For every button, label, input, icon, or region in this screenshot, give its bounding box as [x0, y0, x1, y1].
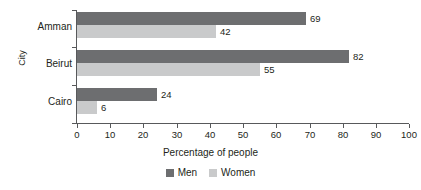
legend-swatch-women-icon: [209, 169, 217, 177]
x-axis-tick: [177, 124, 178, 128]
bar-chart: City Amman Beirut Cairo 69 42 82 55 24 6…: [0, 0, 421, 190]
x-axis-tick: [376, 124, 377, 128]
x-axis-tick: [143, 124, 144, 128]
x-axis-tick: [77, 124, 78, 128]
x-axis-tick-label-0: 0: [62, 129, 92, 141]
bar-women-beirut: [77, 63, 260, 76]
x-axis-tick: [110, 124, 111, 128]
x-axis-tick-label-80: 80: [328, 129, 358, 141]
category-label-cairo: Cairo: [3, 96, 77, 108]
x-axis-tick-label-20: 20: [128, 129, 158, 141]
legend-item-men: Men: [166, 167, 197, 179]
legend-label-women: Women: [221, 167, 255, 179]
x-axis-tick-label-30: 30: [162, 129, 192, 141]
x-axis-tick-label-70: 70: [295, 129, 325, 141]
x-axis-tick-label-100: 100: [394, 129, 421, 141]
legend-swatch-men-icon: [166, 169, 174, 177]
bar-value-men-amman: 69: [310, 12, 321, 25]
legend-label-men: Men: [178, 167, 197, 179]
x-axis-title: Percentage of people: [0, 146, 421, 159]
bar-men-amman: [77, 12, 306, 25]
x-axis-tick-label-90: 90: [361, 129, 391, 141]
bar-value-women-beirut: 55: [264, 63, 275, 76]
bar-women-cairo: [77, 101, 97, 114]
bar-value-men-cairo: 24: [161, 88, 172, 101]
x-axis-tick: [343, 124, 344, 128]
legend-item-women: Women: [209, 167, 255, 179]
x-axis-tick: [409, 124, 410, 128]
legend: Men Women: [0, 167, 421, 179]
x-axis-tick-label-10: 10: [95, 129, 125, 141]
bar-value-men-beirut: 82: [353, 50, 364, 63]
category-label-beirut: Beirut: [3, 58, 77, 70]
x-axis-tick: [276, 124, 277, 128]
category-axis-tick: [72, 85, 77, 86]
category-axis-labels: Amman Beirut Cairo: [0, 0, 77, 125]
category-label-amman: Amman: [3, 21, 77, 33]
bar-value-women-amman: 42: [220, 25, 231, 38]
bar-value-women-cairo: 6: [101, 101, 106, 114]
x-axis-tick: [210, 124, 211, 128]
category-axis-tick: [72, 10, 77, 11]
x-axis-tick: [310, 124, 311, 128]
x-axis-tick-label-40: 40: [195, 129, 225, 141]
x-axis-tick-label-60: 60: [261, 129, 291, 141]
bar-men-beirut: [77, 50, 349, 63]
category-axis-tick: [72, 47, 77, 48]
x-axis-tick-label-50: 50: [228, 129, 258, 141]
x-axis-tick: [243, 124, 244, 128]
bar-men-cairo: [77, 88, 157, 101]
bar-women-amman: [77, 25, 216, 38]
